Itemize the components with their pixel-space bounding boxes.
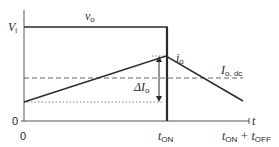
buck-waveform-diagram: Vi vo io Io, dc ΔIo 0 0 tON tON + tOFF t — [0, 0, 279, 147]
t-axis-label: t — [252, 114, 256, 128]
vi-label: Vi — [8, 20, 17, 35]
x-zero-label: 0 — [20, 130, 26, 142]
t-on-plus-t-off-label: tON + tOFF — [222, 129, 271, 144]
vo-label: vo — [85, 9, 95, 24]
delta-io-label: ΔIo — [133, 80, 150, 95]
y-zero-label: 0 — [12, 115, 18, 127]
io-waveform — [24, 56, 243, 102]
delta-io-arrowhead-down — [156, 96, 162, 102]
io-dc-label: Io, dc — [220, 63, 242, 78]
io-label: io — [176, 51, 184, 66]
vo-waveform — [24, 27, 167, 121]
t-on-label: tON — [158, 129, 174, 144]
